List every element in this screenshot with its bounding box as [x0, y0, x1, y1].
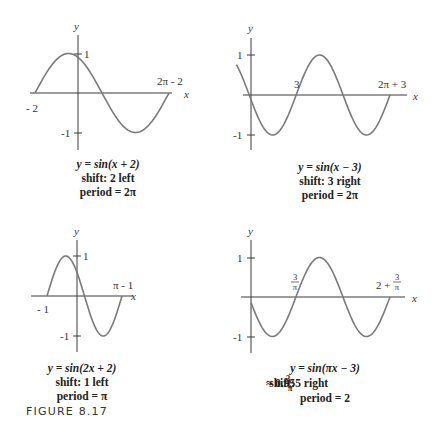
y-tick-label-1: 1 — [237, 252, 243, 264]
x-axis-label: x — [412, 90, 418, 102]
panel-sin-2x-plus-2: y x 1 -1 - 1 π - 1 y = sin(2x + 2) shift… — [31, 225, 136, 403]
x-tick-label-right-fraction: 2 + 3 π — [376, 272, 401, 292]
equation: y = sin(x + 2) — [75, 158, 140, 171]
period-text: period = 2π — [302, 189, 359, 202]
equation: y = sin(πx − 3) — [288, 362, 360, 375]
x-axis-label: x — [130, 290, 136, 302]
y-tick-label-1: 1 — [84, 48, 90, 60]
y-tick-label-neg1: -1 — [61, 127, 70, 139]
x-tick-label-left: - 2 — [26, 102, 38, 114]
panel-sin-pi-x-minus-3: y x 1 -1 3 π 2 + 3 π y = sin(πx − 3) shi… — [233, 225, 417, 405]
fraction-prefix: 2 + — [376, 279, 390, 291]
y-axis-label: y — [73, 20, 79, 32]
y-axis-label: y — [247, 22, 253, 34]
x-tick-label-right: π - 1 — [113, 279, 133, 291]
x-tick-label-right: 2π + 3 — [378, 78, 407, 90]
x-tick-label-mid: 3 — [294, 78, 300, 90]
equation: y = sin(x − 3) — [296, 161, 362, 174]
y-tick-label-neg1: -1 — [233, 331, 242, 343]
y-tick-label-neg1: -1 — [60, 330, 69, 342]
shift-text: shift: 2 left — [81, 172, 134, 184]
y-tick-label-neg1: -1 — [233, 129, 242, 141]
x-tick-label-left: - 1 — [37, 303, 49, 315]
x-axis-label: x — [411, 292, 417, 304]
equation: y = sin(2x + 2) — [46, 362, 117, 375]
fraction-numerator: 3 — [293, 272, 297, 282]
shift-suffix: ≈ 0.955 right — [266, 377, 328, 390]
y-tick-label-1: 1 — [83, 250, 89, 262]
shift-text: shift: 1 left — [55, 376, 108, 388]
y-axis-label: y — [73, 225, 79, 237]
y-axis-label: y — [247, 225, 253, 237]
shift-text: shift: 3 π ≈ 0.955 right — [266, 373, 328, 393]
fraction-denominator: π — [395, 282, 400, 292]
fraction-numerator: 3 — [395, 272, 399, 282]
period-text: period = 2π — [80, 186, 137, 199]
period-text: period = π — [57, 390, 108, 403]
x-tick-label-mid-fraction: 3 π — [291, 272, 299, 292]
panel-sin-x-plus-2: y x 1 -1 - 2 2π - 2 y = sin(x + 2) shift… — [26, 20, 189, 199]
figure-label: FIGURE 8.17 — [26, 405, 108, 418]
x-tick-label-right: 2π - 2 — [157, 75, 183, 87]
panel-sin-x-minus-3: y x 1 -1 3 2π + 3 y = sin(x − 3) shift: … — [233, 22, 418, 202]
shift-text: shift: 3 right — [299, 175, 361, 188]
x-axis-label: x — [183, 88, 189, 100]
fraction-denominator: π — [293, 282, 298, 292]
period-text: period = 2 — [300, 392, 350, 405]
figure-8-17: y x 1 -1 - 2 2π - 2 y = sin(x + 2) shift… — [0, 0, 437, 432]
y-tick-label-1: 1 — [237, 49, 243, 61]
